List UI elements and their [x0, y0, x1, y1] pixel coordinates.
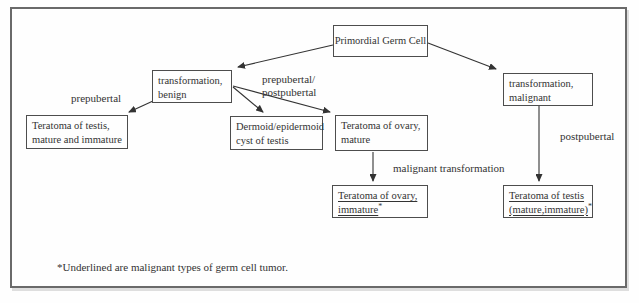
node-teratoma-ovary-immature: Teratoma of ovary, immature* — [332, 185, 428, 218]
node-label-line2: (mature,immature)* — [509, 203, 588, 217]
edge-label-postpubertal: postpubertal — [560, 130, 614, 143]
node-label-line2: mature and immature — [32, 133, 123, 147]
malignant-marker: * — [378, 201, 382, 210]
node-label-line2: malignant — [509, 91, 588, 105]
node-label-line1: transformation, — [158, 74, 227, 88]
node-primordial-germ-cell: Primordial Germ Cell — [333, 25, 428, 57]
node-transformation-malignant: transformation, malignant — [503, 73, 593, 106]
node-label-line2: cyst of testis — [236, 134, 318, 148]
node-dermoid-epidermoid-cyst: Dermoid/epidermoid cyst of testis — [230, 116, 323, 150]
node-teratoma-testis-mature-immature: Teratoma of testis, mature and immature — [26, 115, 128, 149]
edge-label-malignant-transformation: malignant transformation — [393, 162, 505, 175]
node-label-line1: Teratoma of testis — [509, 189, 588, 203]
node-teratoma-ovary-mature: Teratoma of ovary, mature — [335, 115, 428, 151]
node-label: Primordial Germ Cell — [335, 34, 427, 48]
node-label-line1: Teratoma of ovary, — [341, 119, 423, 133]
node-label-line1: Teratoma of testis, — [32, 119, 123, 133]
footnote: *Underlined are malignant types of germ … — [57, 261, 288, 273]
node-transformation-benign: transformation, benign — [152, 70, 232, 103]
edge-label-prepubertal: prepubertal — [71, 92, 121, 105]
node-label-line2: benign — [158, 88, 227, 102]
node-label-line1: transformation, — [509, 77, 588, 91]
malignant-marker: * — [588, 201, 592, 210]
node-label-line2: immature* — [338, 203, 423, 217]
node-label-line2: mature — [341, 133, 423, 147]
node-label-line1: Dermoid/epidermoid — [236, 120, 318, 134]
node-teratoma-testis-malignant: Teratoma of testis (mature,immature)* — [503, 185, 593, 218]
edge-label-prepubertal-postpubertal: prepubertal/ postpubertal — [262, 73, 316, 99]
